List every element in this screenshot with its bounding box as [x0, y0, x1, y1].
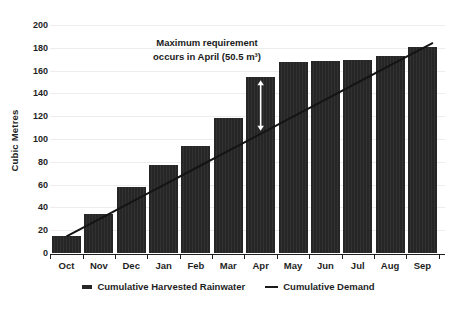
bar-jan	[149, 165, 178, 254]
y-tick-40: 40	[18, 202, 48, 212]
x-tick-mar: Mar	[211, 260, 245, 271]
x-axis-tick-2	[115, 255, 116, 259]
y-tick-80: 80	[18, 157, 48, 167]
bar-feb	[181, 146, 210, 253]
x-axis-tick-9	[342, 255, 343, 259]
y-tick-60: 60	[18, 180, 48, 190]
bar-sep	[408, 47, 437, 253]
y-tick-180: 180	[18, 43, 48, 53]
legend-label-demand: Cumulative Demand	[283, 281, 374, 292]
x-axis-tick-10	[374, 255, 375, 259]
x-axis-tick-4	[180, 255, 181, 259]
bar-mar	[214, 118, 243, 254]
y-tick-140: 140	[18, 88, 48, 98]
y-tick-200: 200	[18, 20, 48, 30]
x-tick-aug: Aug	[373, 260, 407, 271]
legend-item-demand: Cumulative Demand	[265, 281, 374, 292]
bar-oct	[52, 236, 81, 253]
y-tick-0: 0	[18, 248, 48, 258]
max-requirement-annotation: Maximum requirement occurs in April (50.…	[118, 36, 296, 64]
x-tick-nov: Nov	[82, 260, 116, 271]
gridline-200	[50, 25, 445, 26]
x-axis-tick-11	[406, 255, 407, 259]
bar-jul	[343, 60, 372, 254]
bar-dec	[117, 187, 146, 253]
x-axis-tick-7	[277, 255, 278, 259]
x-axis-line	[50, 254, 445, 256]
annotation-line-1: Maximum requirement	[118, 36, 296, 50]
legend: Cumulative Harvested Rainwater Cumulativ…	[0, 281, 457, 292]
x-tick-may: May	[276, 260, 310, 271]
x-tick-dec: Dec	[114, 260, 148, 271]
x-axis-tick-6	[244, 255, 245, 259]
x-tick-apr: Apr	[244, 260, 278, 271]
x-tick-feb: Feb	[179, 260, 213, 271]
annotation-line-2: occurs in April (50.5 m³)	[118, 50, 296, 64]
y-tick-160: 160	[18, 66, 48, 76]
x-tick-jan: Jan	[147, 260, 181, 271]
x-tick-sep: Sep	[405, 260, 439, 271]
bar-aug	[376, 56, 405, 253]
x-axis-tick-3	[147, 255, 148, 259]
bar-may	[279, 62, 308, 254]
x-axis-tick-1	[83, 255, 84, 259]
x-axis-tick-5	[212, 255, 213, 259]
y-tick-120: 120	[18, 111, 48, 121]
x-tick-oct: Oct	[50, 260, 84, 271]
legend-label-harvested: Cumulative Harvested Rainwater	[97, 281, 245, 292]
x-axis-tick-0	[50, 255, 51, 259]
x-tick-jun: Jun	[308, 260, 342, 271]
bar-swatch-icon	[82, 285, 92, 289]
y-tick-100: 100	[18, 134, 48, 144]
rainwater-harvesting-chart: Cubic Metres 020406080100120140160180200…	[0, 0, 457, 311]
legend-item-harvested: Cumulative Harvested Rainwater	[82, 281, 245, 292]
x-axis-tick-8	[309, 255, 310, 259]
x-axis-tick-12	[439, 255, 440, 259]
bar-jun	[311, 61, 340, 254]
y-tick-20: 20	[18, 225, 48, 235]
bar-apr	[246, 77, 275, 254]
x-tick-jul: Jul	[341, 260, 375, 271]
bar-nov	[84, 214, 113, 254]
line-swatch-icon	[265, 286, 278, 288]
